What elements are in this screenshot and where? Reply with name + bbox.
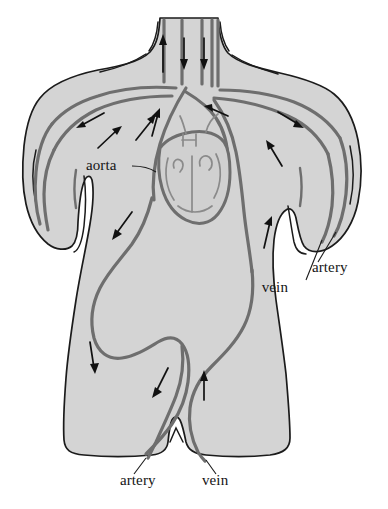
body-silhouette-group (23, 18, 361, 457)
label-arm-vein: vein (262, 279, 289, 295)
label-arm-artery: artery (312, 259, 348, 275)
label-aorta: aorta (86, 157, 117, 173)
torso-body-outline (23, 18, 361, 457)
crotch-notch (170, 428, 183, 442)
label-leg-artery: artery (120, 472, 156, 488)
label-leg-vein: vein (202, 472, 229, 488)
diagram-canvas: aorta artery vein artery vein (0, 0, 388, 509)
circulatory-diagram-figure: aorta artery vein artery vein (0, 0, 388, 509)
